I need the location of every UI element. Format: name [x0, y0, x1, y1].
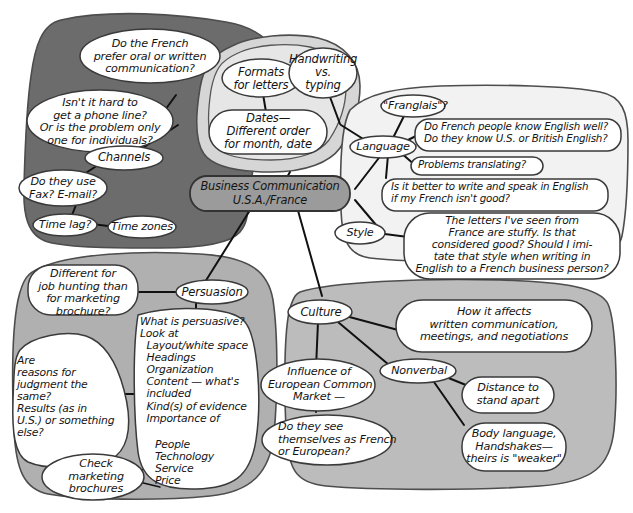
bubble-fax-email[interactable] — [19, 170, 107, 206]
bubble-formats-letters[interactable] — [222, 59, 300, 97]
bubble-stuffy-letters[interactable] — [404, 213, 620, 279]
link-center-culture — [297, 207, 322, 296]
bubble-time-lag[interactable] — [33, 214, 97, 236]
node-center[interactable] — [190, 176, 350, 211]
bubble-channels[interactable] — [85, 146, 163, 170]
bubble-common-market[interactable] — [261, 359, 375, 411]
bubble-job-hunting[interactable] — [28, 265, 138, 315]
bubble-dates[interactable] — [209, 110, 327, 154]
bubble-nonverbal[interactable] — [380, 359, 456, 383]
bubble-culture[interactable] — [288, 300, 352, 324]
bubble-handwriting-typing[interactable] — [289, 48, 357, 98]
bubble-language[interactable] — [350, 136, 416, 158]
bubble-style[interactable] — [335, 222, 385, 244]
bubble-time-zones[interactable] — [108, 216, 176, 238]
mind-map-svg — [0, 0, 633, 513]
bubble-distance[interactable] — [462, 377, 554, 413]
bubble-write-english[interactable] — [382, 179, 608, 211]
bubble-know-english[interactable] — [415, 119, 621, 151]
bubble-body-language[interactable] — [462, 423, 566, 471]
bubble-persuasion[interactable] — [176, 280, 248, 304]
bubble-check-brochures[interactable] — [42, 454, 144, 500]
bubble-oral-written[interactable] — [80, 29, 220, 83]
bubble-franglais[interactable] — [381, 95, 445, 117]
bubble-how-affects[interactable] — [396, 300, 592, 352]
bubble-what-persuasive[interactable] — [134, 309, 259, 490]
bubble-french-or-european[interactable] — [262, 415, 392, 465]
mind-map-canvas: Do the French prefer oral or written com… — [0, 0, 633, 513]
bubble-problems-translating[interactable] — [411, 157, 543, 175]
bubble-phone-line[interactable] — [27, 90, 173, 152]
